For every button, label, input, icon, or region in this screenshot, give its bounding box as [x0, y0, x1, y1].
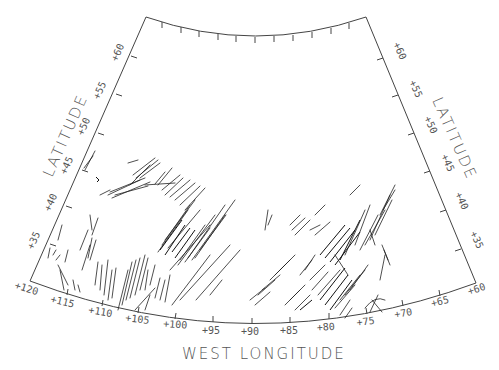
- lat-left-60: +60: [109, 42, 126, 63]
- top-ticks: [162, 22, 349, 43]
- lat-right-40: +40: [453, 190, 470, 211]
- longitude-title: WEST LONGITUDE: [182, 345, 346, 363]
- bottom-ticks: [67, 289, 440, 324]
- eastern-segments: [250, 185, 395, 318]
- lon-label-120: +120: [13, 279, 39, 297]
- lon-label-85: +85: [280, 325, 298, 336]
- right-latitude-labels: +60 +55 +50 +45 +40 +35 LATITUDE: [391, 40, 485, 250]
- lon-label-80: +80: [316, 321, 335, 333]
- lon-label-60: +60: [466, 281, 487, 297]
- lat-right-60: +60: [391, 40, 408, 61]
- lat-left-40: +40: [42, 192, 59, 213]
- left-latitude-labels: +60 +55 +50 +45 +40 +35 LATITUDE: [25, 42, 126, 251]
- lon-label-110: +110: [88, 304, 114, 319]
- lon-label-75: +75: [356, 315, 375, 328]
- lon-label-70: +70: [393, 306, 413, 320]
- map-frame: [30, 17, 476, 324]
- lat-right-35: +35: [468, 229, 485, 250]
- lon-label-95: +95: [202, 325, 220, 336]
- lon-label-105: +105: [125, 312, 150, 326]
- lon-label-65: +65: [430, 294, 450, 309]
- lat-right-55: +55: [407, 78, 424, 99]
- conic-map: +120 +115 +110 +105 +100 +95 +90 +85 +80…: [0, 0, 499, 370]
- lon-label-100: +100: [163, 318, 188, 331]
- lon-label-90: +90: [241, 326, 259, 337]
- lat-left-55: +55: [91, 80, 108, 101]
- lat-left-35: +35: [25, 230, 42, 251]
- longitude-labels: +120 +115 +110 +105 +100 +95 +90 +85 +80…: [13, 279, 486, 337]
